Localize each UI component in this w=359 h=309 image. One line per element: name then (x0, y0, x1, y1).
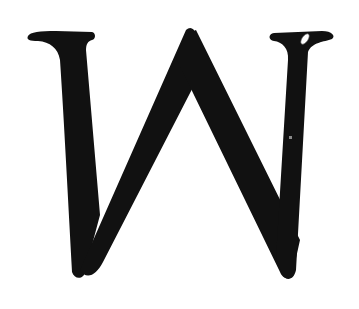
left-serif (27, 31, 100, 278)
letter-canvas: W (0, 0, 359, 309)
right-stroke (270, 31, 334, 279)
letter-w-glyph (0, 0, 359, 309)
letter-text: W (0, 0, 1, 1)
speck-mark (289, 136, 292, 139)
